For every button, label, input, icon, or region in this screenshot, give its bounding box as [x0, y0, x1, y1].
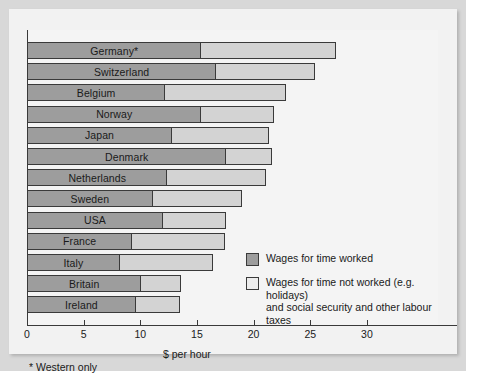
bar-country-label: Denmark: [28, 149, 225, 164]
bar-country-label: Germany*: [28, 43, 200, 58]
bar-row: Italy: [27, 254, 213, 271]
legend-item: Wages for time not worked (e.g. holidays…: [246, 276, 457, 326]
bar-country-label: Netherlands: [28, 170, 166, 185]
bar-segment-wages-time-not-worked: [201, 42, 336, 59]
bar-row: Britain: [27, 275, 181, 292]
bar-row: France: [27, 233, 225, 250]
bar-country-label: Switzerland: [28, 64, 215, 79]
bar-segment-wages-time-worked: France: [27, 233, 132, 250]
bar-segment-wages-time-worked: Britain: [27, 275, 141, 292]
outer-card: Germany*SwitzerlandBelgiumNorwayJapanDen…: [0, 0, 466, 371]
bar-segment-wages-time-worked: Japan: [27, 127, 172, 144]
bar-row: Netherlands: [27, 169, 266, 186]
x-axis-title: $ per hour: [163, 348, 211, 360]
x-axis-tick: [197, 320, 198, 325]
x-axis-tick-label: 15: [191, 328, 203, 340]
legend-label: Wages for time not worked (e.g. holidays…: [266, 276, 457, 326]
chart-panel: Germany*SwitzerlandBelgiumNorwayJapanDen…: [9, 9, 457, 354]
bar-row: Switzerland: [27, 63, 315, 80]
legend-swatch-dark: [246, 253, 259, 266]
bar-segment-wages-time-worked: Denmark: [27, 148, 226, 165]
bar-row: Ireland: [27, 296, 180, 313]
bar-row: Belgium: [27, 84, 286, 101]
x-axis-tick: [140, 320, 141, 325]
x-axis-tick-label: 0: [24, 328, 30, 340]
bar-segment-wages-time-not-worked: [136, 296, 180, 313]
chart-legend: Wages for time workedWages for time not …: [246, 252, 457, 336]
bar-country-label: Sweden: [28, 191, 152, 206]
bar-country-label: Ireland: [28, 297, 135, 312]
chart-footnote: * Western only: [29, 361, 97, 373]
x-axis-tick-label: 5: [81, 328, 87, 340]
bar-segment-wages-time-not-worked: [216, 63, 315, 80]
chart-screenshot: Germany*SwitzerlandBelgiumNorwayJapanDen…: [0, 0, 498, 379]
bar-row: Denmark: [27, 148, 272, 165]
bar-segment-wages-time-worked: Ireland: [27, 296, 136, 313]
bar-segment-wages-time-not-worked: [120, 254, 213, 271]
bar-segment-wages-time-worked: Norway: [27, 106, 201, 123]
bar-country-label: Norway: [28, 107, 200, 122]
legend-swatch-light: [246, 277, 259, 290]
bar-segment-wages-time-not-worked: [165, 84, 286, 101]
bar-country-label: France: [28, 234, 131, 249]
x-axis-tick: [27, 320, 28, 325]
bar-country-label: Italy: [28, 255, 119, 270]
bar-segment-wages-time-worked: Switzerland: [27, 63, 216, 80]
bar-segment-wages-time-not-worked: [226, 148, 271, 165]
bar-country-label: Britain: [28, 276, 140, 291]
bar-segment-wages-time-not-worked: [153, 190, 243, 207]
bar-segment-wages-time-not-worked: [172, 127, 269, 144]
x-axis-tick-label: 10: [134, 328, 146, 340]
bar-row: Germany*: [27, 42, 336, 59]
x-axis-tick: [84, 320, 85, 325]
bar-row: Norway: [27, 106, 274, 123]
bar-segment-wages-time-not-worked: [132, 233, 225, 250]
legend-item: Wages for time worked: [246, 252, 457, 266]
bar-row: Japan: [27, 127, 269, 144]
bar-segment-wages-time-worked: Sweden: [27, 190, 153, 207]
bar-segment-wages-time-worked: Germany*: [27, 42, 201, 59]
bar-segment-wages-time-not-worked: [163, 212, 226, 229]
bar-country-label: Belgium: [28, 85, 164, 100]
bar-segment-wages-time-worked: Netherlands: [27, 169, 167, 186]
bar-row: USA: [27, 212, 226, 229]
bar-segment-wages-time-worked: USA: [27, 212, 163, 229]
bar-segment-wages-time-not-worked: [167, 169, 266, 186]
bar-segment-wages-time-not-worked: [201, 106, 274, 123]
bar-country-label: Japan: [28, 128, 171, 143]
bar-segment-wages-time-worked: Belgium: [27, 84, 165, 101]
bar-country-label: USA: [28, 213, 162, 228]
legend-label: Wages for time worked: [266, 252, 373, 265]
bar-segment-wages-time-not-worked: [141, 275, 181, 292]
bar-segment-wages-time-worked: Italy: [27, 254, 120, 271]
bar-row: Sweden: [27, 190, 242, 207]
